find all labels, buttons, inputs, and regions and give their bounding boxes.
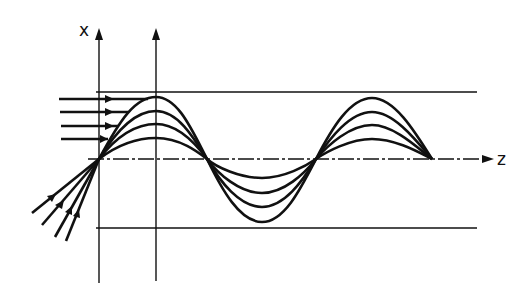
trajectory-4 xyxy=(99,138,432,178)
z-axis-label: z xyxy=(497,149,506,169)
ray-diagram: z x xyxy=(0,0,530,299)
z-axis-arrow-icon xyxy=(482,155,494,163)
reference-vertical-arrow-icon xyxy=(152,28,160,40)
incoming-oblique-rays xyxy=(32,159,99,241)
x-axis-label: x xyxy=(79,20,89,40)
x-axis-arrow-icon xyxy=(95,28,103,40)
